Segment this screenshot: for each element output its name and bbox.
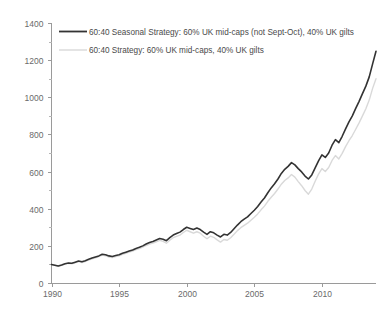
x-axis-group: 19901995200020052010 <box>43 283 376 299</box>
y-axis-tick-label: 1200 <box>25 56 44 66</box>
legend-label-2: 60:40 Strategy: 60% UK mid-caps, 40% UK … <box>89 46 264 55</box>
series-line-1 <box>52 51 377 266</box>
chart-legend: 60:40 Seasonal Strategy: 60% UK mid-caps… <box>59 28 354 56</box>
y-axis-group: 0200400600800100012001400 <box>25 19 52 289</box>
series-line-2 <box>52 79 377 267</box>
data-series-group <box>52 51 377 266</box>
y-axis-tick-label: 1400 <box>25 19 44 29</box>
x-axis-tick-labels: 19901995200020052010 <box>43 289 332 299</box>
y-axis-tick-label: 1000 <box>25 93 44 103</box>
y-axis-tick-label: 200 <box>29 242 43 252</box>
x-axis-tick-label: 1995 <box>110 289 129 299</box>
y-axis-tick-label: 0 <box>39 279 44 289</box>
x-axis-tick-label: 1990 <box>43 289 62 299</box>
y-axis-tick-labels: 0200400600800100012001400 <box>25 19 44 289</box>
y-axis-tick-label: 800 <box>29 130 43 140</box>
x-axis-tick-label: 2010 <box>313 289 332 299</box>
chart-container: 0200400600800100012001400 19901995200020… <box>0 0 387 313</box>
legend-label-1: 60:40 Seasonal Strategy: 60% UK mid-caps… <box>89 28 354 37</box>
x-axis-tick-label: 2000 <box>178 289 197 299</box>
y-axis-tick-label: 400 <box>29 205 43 215</box>
line-chart: 0200400600800100012001400 19901995200020… <box>0 0 387 313</box>
y-axis-tick-label: 600 <box>29 168 43 178</box>
x-axis-tick-label: 2005 <box>245 289 264 299</box>
